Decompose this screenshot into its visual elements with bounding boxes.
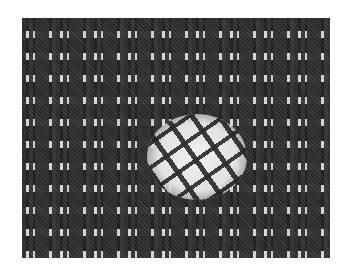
grid-texture: [22, 18, 330, 258]
rotated-grid-pattern: [147, 114, 247, 200]
rotated-inset-patch: [147, 114, 247, 200]
